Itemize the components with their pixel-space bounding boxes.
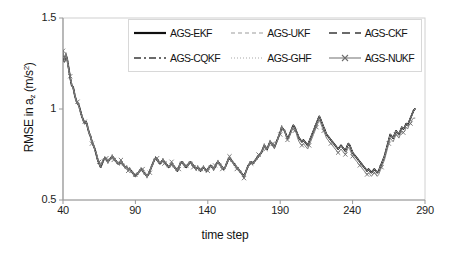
legend-label-ags-ckf: AGS-CKF (365, 27, 407, 39)
legend-label-ags-nukf: AGS-NUKF (365, 52, 414, 64)
legend-label-ags-ukf: AGS-UKF (267, 27, 309, 39)
y-axis-title-subscript: z (28, 95, 37, 99)
x-tick-label-140: 140 (192, 204, 222, 216)
x-tick-label-40: 40 (48, 204, 78, 216)
legend-swatch-dashed-icon (328, 28, 362, 38)
legend-item-ags-ckf: AGS-CKF (324, 20, 421, 46)
y-tick-label-1-5: 1.5 (24, 11, 56, 23)
chart-legend: AGS-EKF AGS-UKF AGS-CKF AGS-CQKF AGS-GHF (128, 19, 422, 72)
legend-swatch-marker-icon (328, 53, 362, 63)
y-axis-title-unit-open: (m/s (22, 70, 36, 95)
legend-label-ags-cqkf: AGS-CQKF (170, 52, 220, 64)
legend-swatch-dotted-icon (230, 53, 264, 63)
x-tick-label-240: 240 (337, 204, 367, 216)
y-axis-title-prefix: RMSE in a (22, 99, 36, 153)
x-axis-title: time step (0, 228, 450, 242)
legend-swatch-solid-icon (133, 28, 167, 38)
legend-label-ags-ekf: AGS-EKF (170, 27, 212, 39)
x-tick-label-190: 190 (265, 204, 295, 216)
legend-label-ags-ghf: AGS-GHF (267, 52, 311, 64)
legend-swatch-dashed-light-icon (230, 28, 264, 38)
legend-item-ags-ukf: AGS-UKF (226, 20, 323, 46)
legend-item-ags-ekf: AGS-EKF (129, 20, 226, 46)
chart-figure: 1.5 1 0.5 40 90 140 190 240 290 time ste… (0, 0, 450, 261)
legend-item-ags-nukf: AGS-NUKF (324, 46, 421, 72)
legend-swatch-dashdot-icon (133, 53, 167, 63)
y-axis-title: RMSE in az (m/s2) (22, 33, 37, 183)
y-axis-title-superscript: 2 (22, 66, 31, 70)
x-tick-label-290: 290 (410, 204, 440, 216)
x-tick-marks (63, 200, 425, 204)
legend-item-ags-cqkf: AGS-CQKF (129, 46, 226, 72)
y-axis-title-unit-close: ) (22, 63, 36, 67)
x-tick-label-90: 90 (120, 204, 150, 216)
legend-item-ags-ghf: AGS-GHF (226, 46, 323, 72)
